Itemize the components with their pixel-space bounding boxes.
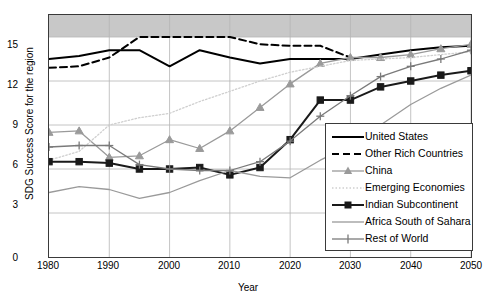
x-axis-tick-label: 2030 bbox=[327, 261, 373, 271]
legend-swatch-other-rich-countries bbox=[331, 147, 365, 161]
y-axis-tick-label: 9 bbox=[0, 120, 18, 130]
legend-label: Africa South of Sahara bbox=[365, 216, 471, 227]
legend-label: Indian Subcontinent bbox=[365, 199, 458, 210]
y-axis-title: SDG Success Score for the region bbox=[24, 0, 35, 249]
x-axis-tick-label: 2010 bbox=[206, 261, 252, 271]
legend-label: Emerging Economies bbox=[365, 182, 465, 193]
legend-item-united-states[interactable]: United States bbox=[326, 128, 472, 145]
y-axis-tick-label: 6 bbox=[0, 160, 18, 170]
legend-item-other-rich-countries[interactable]: Other Rich Countries bbox=[326, 145, 472, 162]
legend-swatch-china bbox=[331, 164, 365, 178]
sdg-success-score-line-chart: 15 12 9 6 3 0 1980 1990 2000 2010 2020 2… bbox=[0, 0, 496, 307]
y-axis-tick-label: 15 bbox=[0, 40, 18, 50]
x-axis-title: Year bbox=[0, 282, 496, 293]
x-axis-tick-label: 1980 bbox=[25, 261, 71, 271]
y-axis-tick-label: 3 bbox=[0, 200, 18, 210]
x-axis-tick-label: 2040 bbox=[388, 261, 434, 271]
legend-label: China bbox=[365, 165, 392, 176]
x-axis-tick-label: 2050 bbox=[448, 261, 494, 271]
legend-swatch-rest-of-world bbox=[331, 232, 365, 246]
legend-label: Other Rich Countries bbox=[365, 148, 463, 159]
legend: United States Other Rich Countries China… bbox=[325, 123, 473, 251]
y-axis-tick-label: 0 bbox=[0, 253, 18, 263]
legend-swatch-africa-south-of-sahara bbox=[331, 215, 365, 229]
legend-swatch-united-states bbox=[331, 130, 365, 144]
legend-swatch-emerging-economies bbox=[331, 181, 365, 195]
legend-item-indian-subcontinent[interactable]: Indian Subcontinent bbox=[326, 196, 472, 213]
x-axis-tick-label: 2000 bbox=[146, 261, 192, 271]
legend-label: United States bbox=[365, 131, 428, 142]
x-axis-tick-label: 2020 bbox=[267, 261, 313, 271]
y-axis-tick-label: 12 bbox=[0, 80, 18, 90]
legend-swatch-indian-subcontinent bbox=[331, 198, 365, 212]
legend-item-china[interactable]: China bbox=[326, 162, 472, 179]
legend-item-africa-south-of-sahara[interactable]: Africa South of Sahara bbox=[326, 213, 472, 230]
legend-label: Rest of World bbox=[365, 233, 428, 244]
legend-item-emerging-economies[interactable]: Emerging Economies bbox=[326, 179, 472, 196]
legend-item-rest-of-world[interactable]: Rest of World bbox=[326, 230, 472, 247]
x-axis-tick-label: 1990 bbox=[85, 261, 131, 271]
